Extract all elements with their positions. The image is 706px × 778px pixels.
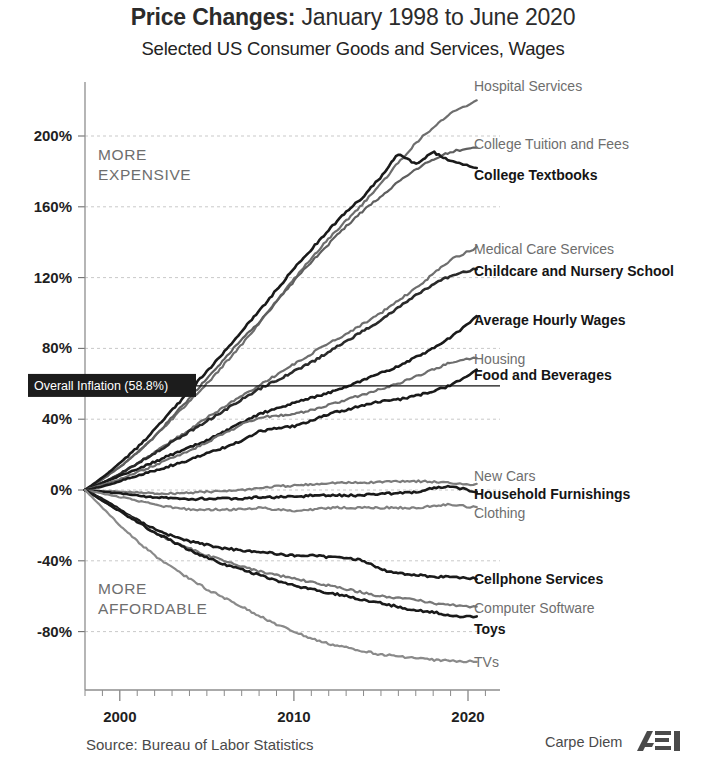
series-label-college-textbooks: College Textbooks [474,167,598,183]
more-affordable-line2: AFFORDABLE [98,600,207,617]
series-label-computer-software: Computer Software [474,600,595,616]
series-label-cellphone-services: Cellphone Services [474,571,603,587]
y-tick-label: -80% [37,623,72,640]
series-label-toys: Toys [474,621,506,637]
aei-logo-icon [637,731,680,751]
x-tick-labels-group: 200020102020 [103,708,485,725]
y-tick-label: 80% [42,339,72,356]
y-tick-label: 120% [34,269,72,286]
line-chart-svg: 200%160%120%80%40%0%-40%-80% 20002010202… [0,0,706,778]
y-tick-label: 160% [34,198,72,215]
series-line [85,152,477,490]
series-line [85,490,477,579]
y-tick-label: -40% [37,552,72,569]
series-label-housing: Housing [474,351,525,367]
x-tick-label: 2020 [451,708,484,725]
brand-text: Carpe Diem [545,734,622,750]
source-note: Source: Bureau of Labor Statistics [86,736,314,753]
more-affordable-line1: MORE [98,580,147,597]
x-tick-label: 2000 [103,708,136,725]
y-tick-label: 200% [34,127,72,144]
overall-inflation-label: Overall Inflation (58.8%) [34,379,168,393]
series-label-medical-care-services: Medical Care Services [474,241,614,257]
series-label-childcare-and-nursery-school: Childcare and Nursery School [474,263,674,279]
series-labels-group: Hospital ServicesCollege Tuition and Fee… [474,78,674,670]
chart-plot-area: 200%160%120%80%40%0%-40%-80% 20002010202… [0,0,706,778]
series-label-college-tuition-and-fees: College Tuition and Fees [474,136,629,152]
series-line [85,148,477,490]
y-tick-label: 40% [42,410,72,427]
more-expensive-line2: EXPENSIVE [98,166,191,183]
series-label-hospital-services: Hospital Services [474,78,582,94]
x-tick-label: 2010 [277,708,310,725]
series-label-new-cars: New Cars [474,468,535,484]
series-line [85,316,477,490]
more-expensive-line1: MORE [98,146,147,163]
series-label-food-and-beverages: Food and Beverages [474,367,612,383]
y-tick-label: 0% [50,481,72,498]
series-label-average-hourly-wages: Average Hourly Wages [474,312,626,328]
series-label-household-furnishings: Household Furnishings [474,486,631,502]
series-label-clothing: Clothing [474,505,525,521]
series-label-tvs: TVs [474,654,499,670]
